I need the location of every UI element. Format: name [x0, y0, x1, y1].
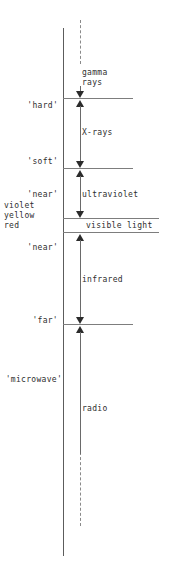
- band-label-infrared: infrared: [82, 275, 123, 285]
- band-label-radio: radio: [82, 404, 108, 414]
- boundary-xray-uv: [63, 168, 133, 169]
- qualifier-label-near-uv: 'near': [0, 190, 58, 200]
- band-label-gamma-line2: rays: [82, 78, 102, 88]
- top-caption-text: bottom is the top of the: [2, 0, 108, 4]
- xray-arrow-shaft: [80, 106, 81, 164]
- visible-color-yellow: yellow: [4, 211, 35, 221]
- band-label-ultraviolet: ultraviolet: [82, 190, 138, 200]
- boundary-infrared-radio: [63, 324, 133, 325]
- qualifier-label-far-ir: 'far': [0, 316, 58, 326]
- dashed-axis-top: [80, 20, 81, 64]
- visible-color-stack: violet yellow red: [4, 201, 35, 231]
- uv-arrowhead-down: [76, 211, 84, 218]
- qualifier-label-soft: 'soft': [0, 157, 58, 167]
- radio-arrow-shaft: [80, 332, 81, 454]
- infrared-arrowhead-down: [76, 317, 84, 324]
- band-label-xrays: X-rays: [82, 128, 113, 138]
- uv-arrow-shaft: [80, 176, 81, 214]
- qualifier-label-microwave: 'microwave': [0, 375, 62, 385]
- boundary-uv-visible: [63, 218, 159, 219]
- qualifier-label-near-ir: 'near': [0, 243, 58, 253]
- visible-color-red: red: [4, 221, 35, 231]
- electromagnetic-spectrum-figure: bottom is the top of the gamma rays 'har…: [0, 0, 169, 570]
- boundary-visible-infrared: [63, 232, 159, 233]
- main-spectrum-axis: [63, 28, 64, 556]
- xray-arrowhead-down: [76, 161, 84, 168]
- dashed-axis-bottom: [80, 452, 81, 526]
- band-label-visible-light: visible light: [86, 221, 153, 231]
- visible-color-violet: violet: [4, 201, 35, 211]
- boundary-gamma-xray: [63, 98, 133, 99]
- infrared-arrow-shaft: [80, 240, 81, 320]
- gamma-arrowhead-down: [76, 91, 84, 98]
- band-label-gamma-line1: gamma: [82, 68, 108, 78]
- qualifier-label-hard: 'hard': [0, 101, 58, 111]
